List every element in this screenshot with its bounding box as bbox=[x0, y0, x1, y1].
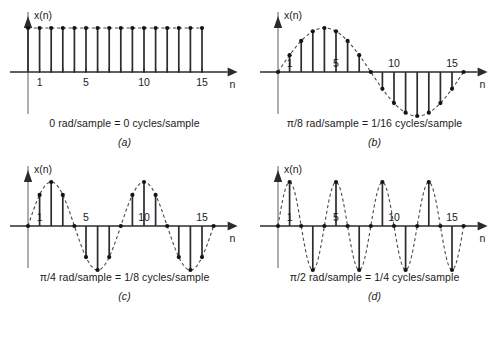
x-tick-label: 5 bbox=[333, 57, 339, 69]
y-axis-label: x(n) bbox=[34, 163, 52, 175]
sample-dot bbox=[188, 26, 192, 30]
x-tick-label: 5 bbox=[83, 76, 89, 88]
sample-dot bbox=[165, 26, 169, 30]
sample-dot bbox=[49, 180, 53, 184]
sample-dot bbox=[346, 39, 350, 43]
panel-a-svg: x(n)n151015 bbox=[0, 2, 249, 120]
sample-dot bbox=[130, 26, 134, 30]
panel-d-svg: x(n)n151015 bbox=[250, 156, 499, 274]
sample-dot bbox=[427, 180, 431, 184]
sample-dot bbox=[380, 180, 384, 184]
figure-discrete-sinusoids: x(n)n151015 0 rad/sample = 0 cycles/samp… bbox=[0, 0, 499, 343]
sample-dot bbox=[369, 224, 373, 228]
sample-dot bbox=[61, 26, 65, 30]
x-axis-arrow-icon bbox=[228, 67, 238, 76]
x-axis-arrow-icon bbox=[478, 67, 488, 76]
x-tick-label: 5 bbox=[83, 211, 89, 223]
sample-dot bbox=[276, 224, 280, 228]
panel-a-label: (a) bbox=[0, 136, 249, 148]
x-axis-arrow-icon bbox=[478, 221, 488, 230]
x-axis-label: n bbox=[480, 232, 486, 244]
y-axis-arrow-icon bbox=[274, 16, 282, 28]
panel-c-caption: π/4 rad/sample = 1/8 cycles/sample bbox=[0, 271, 249, 283]
y-axis-label: x(n) bbox=[34, 9, 52, 21]
x-tick-label: 1 bbox=[37, 211, 43, 223]
sample-dot bbox=[200, 26, 204, 30]
y-axis-arrow-icon bbox=[24, 170, 32, 182]
panel-b-caption: π/8 rad/sample = 1/16 cycles/sample bbox=[250, 117, 499, 129]
y-axis-label: x(n) bbox=[284, 9, 302, 21]
sample-dot bbox=[438, 101, 442, 105]
x-axis-arrow-icon bbox=[228, 221, 238, 230]
panel-b: x(n)n151015 π/8 rad/sample = 1/16 cycles… bbox=[250, 2, 499, 173]
sample-dot bbox=[177, 255, 181, 259]
x-axis-label: n bbox=[230, 78, 236, 90]
sample-dot bbox=[84, 255, 88, 259]
sample-dot bbox=[322, 224, 326, 228]
sample-dot bbox=[415, 224, 419, 228]
sample-dot bbox=[380, 87, 384, 91]
sample-dot bbox=[288, 180, 292, 184]
panel-d-label: (d) bbox=[250, 290, 499, 302]
sample-dot bbox=[107, 255, 111, 259]
sample-dot bbox=[438, 224, 442, 228]
sample-dot bbox=[299, 39, 303, 43]
x-tick-label: 15 bbox=[196, 211, 208, 223]
sample-dot bbox=[357, 53, 361, 57]
x-tick-label: 15 bbox=[446, 211, 458, 223]
sample-dot bbox=[334, 180, 338, 184]
sample-dot bbox=[369, 70, 373, 74]
sample-dot bbox=[26, 26, 30, 30]
sample-dot bbox=[119, 224, 123, 228]
x-tick-label: 10 bbox=[388, 211, 400, 223]
sample-dot bbox=[165, 224, 169, 228]
sample-dot bbox=[427, 111, 431, 115]
sample-dot bbox=[392, 101, 396, 105]
panel-b-label: (b) bbox=[250, 136, 499, 148]
sample-dot bbox=[212, 224, 216, 228]
sample-dot bbox=[72, 224, 76, 228]
panel-a-caption: 0 rad/sample = 0 cycles/sample bbox=[0, 117, 249, 129]
sample-dot bbox=[346, 224, 350, 228]
panel-d: x(n)n151015 π/2 rad/sample = 1/4 cycles/… bbox=[250, 156, 499, 327]
sample-dot bbox=[462, 70, 466, 74]
x-tick-label: 5 bbox=[333, 211, 339, 223]
sample-dot bbox=[276, 70, 280, 74]
sample-dot bbox=[119, 26, 123, 30]
sample-dot bbox=[299, 224, 303, 228]
y-axis-arrow-icon bbox=[274, 170, 282, 182]
x-tick-label: 10 bbox=[138, 211, 150, 223]
panel-d-caption: π/2 rad/sample = 1/4 cycles/sample bbox=[250, 271, 499, 283]
sample-dot bbox=[38, 193, 42, 197]
sample-dot bbox=[130, 193, 134, 197]
sample-dot bbox=[450, 87, 454, 91]
x-tick-label: 1 bbox=[287, 211, 293, 223]
x-tick-label: 10 bbox=[138, 76, 150, 88]
sample-dot bbox=[49, 26, 53, 30]
panel-c-label: (c) bbox=[0, 290, 249, 302]
sample-dot bbox=[404, 111, 408, 115]
x-tick-label: 15 bbox=[446, 57, 458, 69]
sample-dot bbox=[107, 26, 111, 30]
x-tick-label: 15 bbox=[196, 76, 208, 88]
x-tick-label: 10 bbox=[388, 57, 400, 69]
sample-dot bbox=[322, 26, 326, 30]
sample-dot bbox=[84, 26, 88, 30]
panel-a: x(n)n151015 0 rad/sample = 0 cycles/samp… bbox=[0, 2, 249, 173]
sample-dot bbox=[142, 180, 146, 184]
sample-dot bbox=[72, 26, 76, 30]
panel-c-svg: x(n)n151015 bbox=[0, 156, 249, 274]
x-tick-label: 1 bbox=[287, 57, 293, 69]
sample-dot bbox=[96, 26, 100, 30]
sample-dot bbox=[334, 29, 338, 33]
panel-a-plot: x(n)n151015 bbox=[0, 2, 249, 120]
sample-dot bbox=[392, 224, 396, 228]
sample-dot bbox=[311, 29, 315, 33]
panel-b-plot: x(n)n151015 bbox=[250, 2, 499, 120]
sample-dot bbox=[154, 26, 158, 30]
panel-c: x(n)n151015 π/4 rad/sample = 1/8 cycles/… bbox=[0, 156, 249, 327]
x-axis-label: n bbox=[480, 78, 486, 90]
panel-c-plot: x(n)n151015 bbox=[0, 156, 249, 274]
sample-dot bbox=[177, 26, 181, 30]
sample-dot bbox=[61, 193, 65, 197]
